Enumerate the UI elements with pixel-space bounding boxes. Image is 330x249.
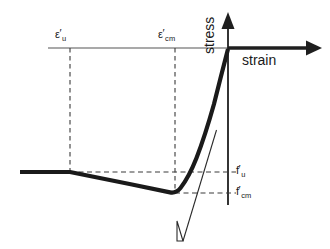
label-strain-at-peak: ε′cm (158, 29, 175, 40)
subscript-glyph: cm (165, 34, 175, 43)
stress-strain-diagram: ε′u ε′cm f′u f′cm strain stress (0, 0, 330, 249)
label-strain-ultimate: ε′u (55, 29, 66, 40)
subscript-glyph: u (241, 170, 245, 179)
y-axis-label: stress (202, 17, 216, 54)
slope-triangle (177, 221, 183, 241)
subscript-glyph: cm (241, 191, 251, 200)
label-stress-ultimate: f′u (236, 165, 246, 176)
up-arrow-icon (222, 12, 235, 29)
subscript-glyph: u (62, 34, 66, 43)
label-stress-at-peak: f′cm (236, 186, 252, 197)
right-arrow-icon (306, 41, 322, 56)
confined-concrete-curve (20, 49, 228, 193)
x-axis-label: strain (242, 53, 276, 67)
